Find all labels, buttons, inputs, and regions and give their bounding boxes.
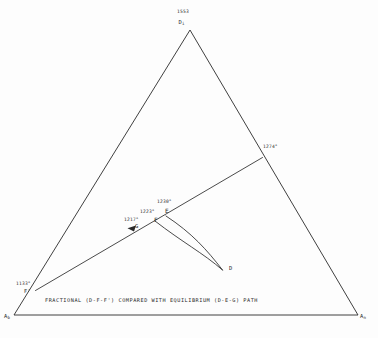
point-label-F-prime: F' (24, 289, 31, 294)
temperature-label-1133: 1133° (16, 282, 31, 287)
vertex-label-ab: Ab (4, 314, 10, 320)
point-label-D: D (229, 266, 232, 271)
temperature-label-1274: 1274° (263, 145, 278, 150)
apex-temperature-label: 1553 (177, 10, 189, 15)
temperature-label-1217: 1217° (124, 218, 139, 223)
vertex-di-sub: i (182, 21, 185, 26)
vertex-label-di: Di (179, 20, 185, 26)
vertex-label-an: An (360, 314, 366, 320)
equilibrium-path-D-E (166, 216, 223, 270)
diagram-canvas (0, 0, 378, 338)
point-label-F: F (154, 217, 158, 223)
vertex-ab-sub: b (7, 315, 10, 320)
figure-caption: FRACTIONAL (D-F-F') COMPARED WITH EQUILI… (45, 298, 258, 303)
point-label-E: E (165, 208, 169, 214)
temperature-label-1223: 1223° (140, 210, 155, 215)
point-label-G: G (135, 224, 138, 229)
temperature-label-1230: 1230° (157, 200, 172, 205)
ternary-phase-diagram: 1553 Di Ab An 1274° 1230° E 1223° F 1217… (0, 0, 378, 338)
fractional-path-D-F (155, 221, 223, 270)
vertex-an-sub: n (363, 315, 366, 320)
ternary-triangle-outline (14, 30, 358, 315)
